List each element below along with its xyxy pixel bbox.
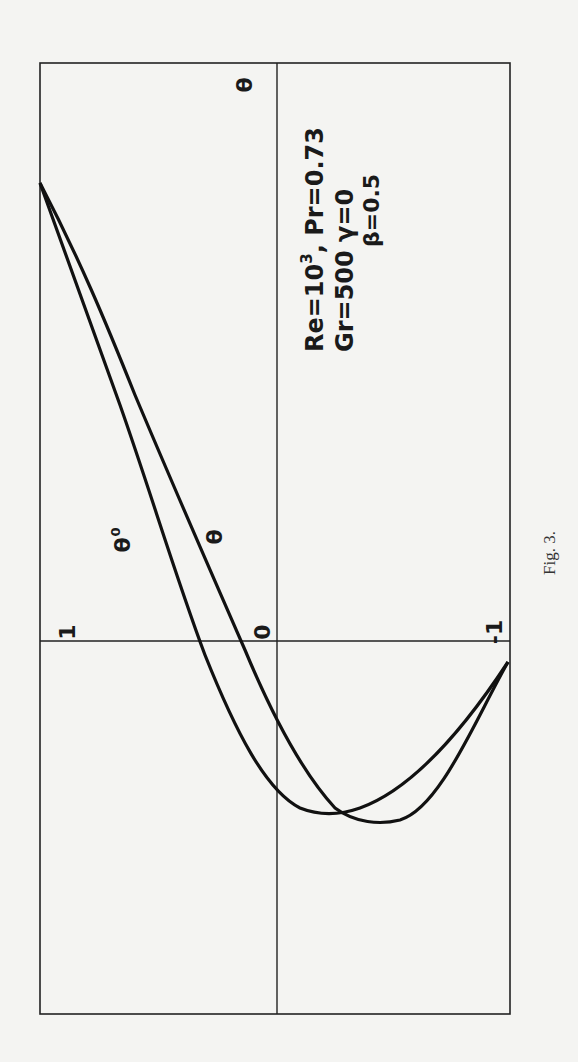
param-line-1: Re=103, Pr=0.73 xyxy=(298,127,329,352)
param-line-2: Gr=500 γ=0 xyxy=(331,189,359,352)
theta-curve-label: θ xyxy=(202,529,227,544)
theta-axis-label: θ xyxy=(232,77,257,92)
figure-3-chart: θ θ0 θ 1 0 -1 Re=103, Pr=0.73 Gr=500 γ=0… xyxy=(0,0,578,1062)
theta-curve xyxy=(40,183,508,822)
tick-label-minus-1: -1 xyxy=(482,620,507,644)
theta0-curve-label: θ0 xyxy=(108,527,135,552)
tick-label-0: 0 xyxy=(250,624,275,639)
tick-label-1: 1 xyxy=(55,624,80,639)
figure-caption: Fig. 3. xyxy=(540,531,559,575)
param-line-3: β=0.5 xyxy=(359,174,384,247)
parameters-block: Re=103, Pr=0.73 Gr=500 γ=0 β=0.5 xyxy=(298,127,384,352)
theta0-curve xyxy=(40,183,508,814)
